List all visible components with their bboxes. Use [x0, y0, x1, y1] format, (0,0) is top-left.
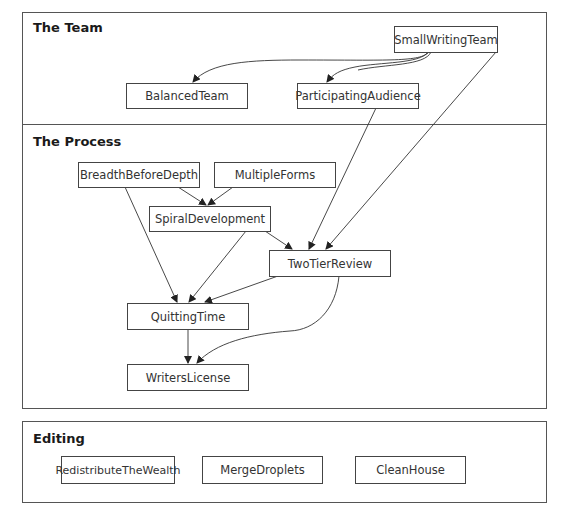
node-merge-droplets[interactable]: MergeDroplets — [202, 456, 323, 484]
section-title-the-process: The Process — [33, 134, 121, 149]
node-writers-license[interactable]: WritersLicense — [127, 364, 249, 391]
node-spiral-development[interactable]: SpiralDevelopment — [149, 206, 271, 232]
node-two-tier-review[interactable]: TwoTierReview — [269, 250, 391, 277]
node-participating-audience[interactable]: ParticipatingAudience — [297, 83, 419, 109]
node-redistribute-the-wealth[interactable]: RedistributeTheWealth — [61, 456, 175, 484]
section-title-the-team: The Team — [33, 20, 103, 35]
node-breadth-before-depth[interactable]: BreadthBeforeDepth — [78, 162, 200, 188]
node-multiple-forms[interactable]: MultipleForms — [214, 162, 336, 188]
node-balanced-team[interactable]: BalancedTeam — [126, 83, 248, 109]
node-quitting-time[interactable]: QuittingTime — [127, 303, 249, 330]
node-small-writing-team[interactable]: SmallWritingTeam — [394, 26, 498, 53]
section-title-editing: Editing — [33, 431, 85, 446]
node-clean-house[interactable]: CleanHouse — [355, 456, 466, 484]
